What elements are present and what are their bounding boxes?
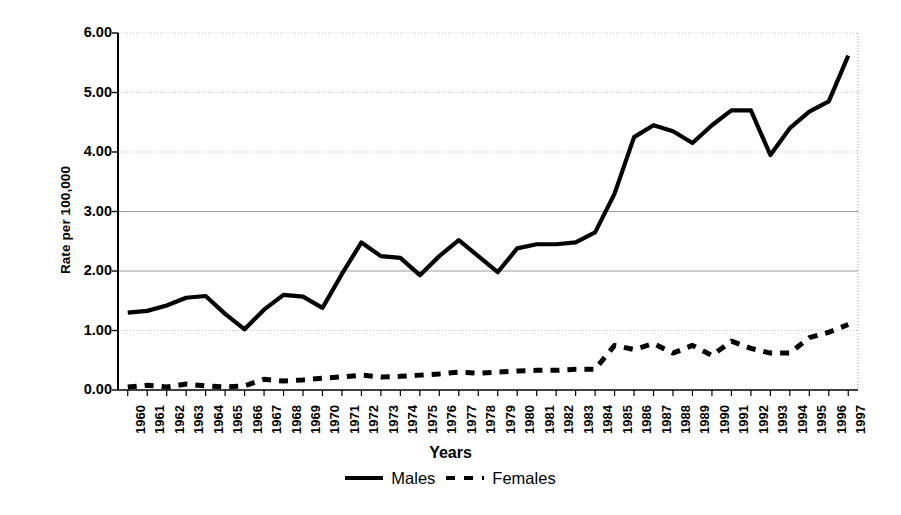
y-axis-tick-label: 3.00	[60, 204, 112, 219]
x-axis-tick-label: 1969	[308, 405, 323, 434]
x-axis-tick-label: 1981	[542, 405, 557, 434]
legend-item-males[interactable]: Males	[345, 470, 435, 487]
x-axis-tick-label: 1978	[483, 405, 498, 434]
x-axis-tick-label: 1983	[581, 405, 596, 434]
x-axis-tick-label: 1966	[250, 405, 265, 434]
series-line-females	[128, 325, 849, 387]
series-line-males	[128, 56, 849, 330]
x-axis-tick-label: 1975	[425, 405, 440, 434]
x-axis-tick-label: 1986	[639, 405, 654, 434]
plot-area	[0, 0, 901, 515]
x-axis-tick-label: 1987	[659, 405, 674, 434]
x-axis-tick-label: 1980	[522, 405, 537, 434]
x-axis-tick-label: 1972	[366, 405, 381, 434]
x-axis-tick-label: 1994	[795, 405, 810, 434]
y-axis-tick-label: 5.00	[60, 85, 112, 100]
x-axis-tick-label: 1974	[405, 405, 420, 434]
x-axis-tick-label: 1991	[736, 405, 751, 434]
x-axis-tick-label: 1989	[697, 405, 712, 434]
x-axis-tick-label: 1992	[756, 405, 771, 434]
legend-item-females[interactable]: Females	[446, 470, 555, 487]
legend-label-females: Females	[492, 470, 555, 487]
x-axis-tick-label: 1990	[717, 405, 732, 434]
solid-line-swatch	[345, 476, 383, 480]
chart-legend: Males Females	[0, 470, 901, 487]
x-axis-tick-label: 1996	[834, 405, 849, 434]
x-axis-tick-label: 1968	[289, 405, 304, 434]
x-axis-tick-label: 1993	[775, 405, 790, 434]
x-axis-tick-label: 1963	[191, 405, 206, 434]
x-axis-tick-label: 1971	[347, 405, 362, 434]
x-axis-tick-label: 1964	[211, 405, 226, 434]
y-axis-tick-label: 2.00	[60, 263, 112, 278]
x-axis-tick-label: 1961	[152, 405, 167, 434]
y-axis-tick-labels: 0.001.002.003.004.005.006.00	[56, 0, 112, 515]
y-axis-tick-label: 1.00	[60, 323, 112, 338]
dashed-line-swatch	[446, 476, 484, 480]
x-axis-tick-label: 1984	[600, 405, 615, 434]
x-axis-tick-label: 1967	[269, 405, 284, 434]
x-axis-tick-label: 1995	[814, 405, 829, 434]
x-axis-tick-label: 1988	[678, 405, 693, 434]
x-axis-tick-label: 1979	[503, 405, 518, 434]
legend-label-males: Males	[391, 470, 435, 487]
x-axis-tick-label: 1962	[172, 405, 187, 434]
x-axis-tick-label: 1982	[561, 405, 576, 434]
x-axis-tick-label: 1976	[444, 405, 459, 434]
x-axis-tick-label: 1965	[230, 405, 245, 434]
x-axis-tick-label: 1973	[386, 405, 401, 434]
x-axis-tick-label: 1977	[464, 405, 479, 434]
chart-figure: Rate per 100,000 0.001.002.003.004.005.0…	[0, 0, 901, 515]
y-axis-tick-label: 6.00	[60, 25, 112, 40]
x-axis-tick-label: 1960	[133, 405, 148, 434]
x-axis-tick-label: 1985	[620, 405, 635, 434]
x-axis-title: Years	[0, 444, 901, 462]
y-axis-tick-label: 0.00	[60, 382, 112, 397]
x-axis-tick-label: 1970	[327, 405, 342, 434]
y-axis-tick-label: 4.00	[60, 144, 112, 159]
x-axis-tick-label: 1997	[853, 405, 868, 434]
